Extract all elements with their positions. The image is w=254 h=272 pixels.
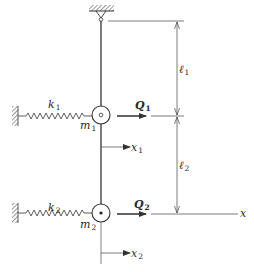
x2-main: x	[131, 247, 137, 260]
k1-sub: 1	[56, 103, 61, 112]
x-axis-label: x	[240, 207, 246, 220]
x1-sub: 1	[138, 146, 143, 155]
k2-sub: 2	[56, 206, 61, 215]
label-m1: m1	[80, 120, 96, 133]
label-q2: Q2	[134, 199, 150, 212]
m1-sub: 1	[91, 124, 96, 133]
m1-main: m	[80, 119, 90, 132]
q2-sub: 2	[145, 203, 150, 212]
wall-2	[12, 203, 18, 223]
pendulum-diagram	[0, 0, 254, 272]
q1-main: Q	[135, 99, 145, 112]
label-x-axis: x	[240, 208, 246, 219]
k2-main: k	[48, 201, 55, 214]
wall-1	[12, 106, 18, 126]
q1-sub: 1	[146, 104, 151, 113]
k1-main: k	[48, 98, 55, 111]
l2-sub: 2	[185, 164, 190, 173]
label-q1: Q1	[135, 100, 151, 113]
label-x1: x1	[131, 142, 143, 155]
label-x2: x2	[131, 248, 143, 261]
l1-main: ℓ	[179, 63, 184, 76]
label-m2: m2	[80, 219, 96, 232]
ceiling-support	[89, 5, 114, 21]
x1-main: x	[131, 141, 137, 154]
m2-main: m	[80, 218, 90, 231]
label-l1: ℓ1	[179, 64, 189, 77]
label-k2: k2	[48, 202, 60, 215]
m2-sub: 2	[91, 223, 96, 232]
l1-sub: 1	[185, 68, 190, 77]
x2-sub: 2	[138, 252, 143, 261]
label-k1: k1	[48, 99, 60, 112]
label-l2: ℓ2	[179, 160, 189, 173]
pivot-icon	[96, 11, 106, 18]
l2-main: ℓ	[179, 159, 184, 172]
q2-main: Q	[134, 198, 144, 211]
